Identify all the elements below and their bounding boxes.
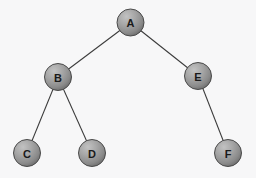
- node-circle-b[interactable]: [45, 64, 72, 91]
- node-circle-d[interactable]: [79, 140, 106, 167]
- tree-node-d[interactable]: D: [79, 140, 106, 167]
- node-circle-f[interactable]: [215, 140, 242, 167]
- node-circle-c[interactable]: [14, 140, 41, 167]
- node-circle-a[interactable]: [117, 9, 144, 36]
- tree-node-e[interactable]: E: [185, 63, 212, 90]
- nodes-group: ABECDF: [14, 9, 242, 167]
- tree-node-c[interactable]: C: [14, 140, 41, 167]
- tree-node-f[interactable]: F: [215, 140, 242, 167]
- binary-tree-diagram: ABECDF: [0, 0, 256, 178]
- node-circle-e[interactable]: [185, 63, 212, 90]
- tree-node-a[interactable]: A: [117, 9, 144, 36]
- tree-node-b[interactable]: B: [45, 64, 72, 91]
- tree-canvas: ABECDF: [0, 0, 256, 178]
